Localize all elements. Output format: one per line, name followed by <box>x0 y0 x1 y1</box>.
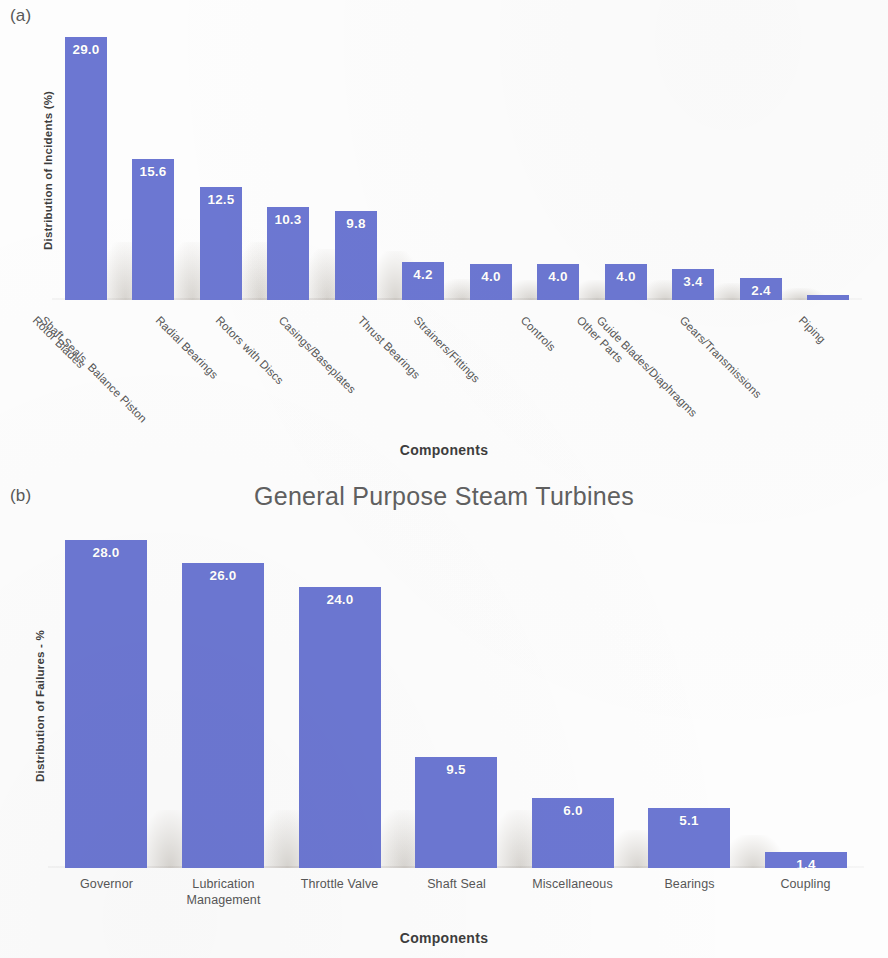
category-label: Strainers/Fittings <box>412 314 483 385</box>
bar-value-label: 9.8 <box>335 216 377 231</box>
bar-value-label: 2.4 <box>740 283 782 298</box>
bar-value-label: 26.0 <box>182 568 264 583</box>
bar-value-label: 15.6 <box>132 164 174 179</box>
panel-b-category-labels: GovernorLubrication ManagementThrottle V… <box>0 876 888 918</box>
category-label: Radial Bearings <box>154 314 221 381</box>
bar[interactable]: 26.0 <box>182 563 264 868</box>
category-label: Controls <box>519 314 558 353</box>
bar-value-label: 4.2 <box>402 267 444 282</box>
bar[interactable]: 4.0 <box>537 264 579 300</box>
category-label: Casings/Baseplates <box>277 314 359 396</box>
bar-value-label: 24.0 <box>299 592 381 607</box>
bar-value-label: 10.3 <box>267 212 309 227</box>
bar[interactable]: 3.4 <box>672 269 714 300</box>
panel-b-x-axis-label: Components <box>0 930 888 946</box>
panel-a-category-labels: Rotor BladesShaft Seals, Balance PistonR… <box>0 308 888 438</box>
panel-b-y-axis-label: Distribution of Failures - % <box>34 630 46 782</box>
bar[interactable]: 4.0 <box>605 264 647 300</box>
bar[interactable]: 4.2 <box>402 262 444 300</box>
bar-value-label: 4.0 <box>470 269 512 284</box>
bar[interactable]: 28.0 <box>65 540 147 868</box>
bar-value-label: 28.0 <box>65 545 147 560</box>
bar-value-label: 29.0 <box>65 42 107 57</box>
bar[interactable]: 5.1 <box>648 808 730 868</box>
panel-b-plot-area: 28.026.024.09.56.05.11.4 <box>48 528 864 868</box>
bar[interactable]: 9.8 <box>335 211 377 300</box>
bar-value-label: 4.0 <box>537 269 579 284</box>
bar[interactable]: 15.6 <box>132 159 174 300</box>
bar-value-label: 6.0 <box>532 803 614 818</box>
category-label: Governor <box>51 876 162 892</box>
panel-a-figure: (a) Distribution of Incidents (%) 29.015… <box>0 0 888 470</box>
category-label: Gears/Transmissions <box>678 314 764 400</box>
bar[interactable]: 9.5 <box>415 757 497 868</box>
bar-value-label: 3.4 <box>672 274 714 289</box>
bar[interactable] <box>807 295 849 300</box>
panel-b-title: General Purpose Steam Turbines <box>0 482 888 511</box>
bar[interactable]: 6.0 <box>532 798 614 868</box>
category-label: Shaft Seals, Balance Piston <box>39 314 150 425</box>
bar[interactable]: 1.4 <box>765 852 847 868</box>
category-label: Piping <box>797 314 829 346</box>
panel-a-x-axis-label: Components <box>0 442 888 458</box>
bar-value-label: 1.4 <box>765 857 847 872</box>
bar-value-label: 4.0 <box>605 269 647 284</box>
category-label: Bearings <box>634 876 745 892</box>
category-label: Rotors with Discs <box>214 314 287 387</box>
panel-a-plot-area: 29.015.612.510.39.84.24.04.04.03.42.4 <box>52 28 862 300</box>
bar-value-label: 9.5 <box>415 762 497 777</box>
category-label: Miscellaneous <box>517 876 628 892</box>
bar[interactable]: 4.0 <box>470 264 512 300</box>
bar[interactable]: 10.3 <box>267 207 309 300</box>
panel-b-figure: (b) General Purpose Steam Turbines Distr… <box>0 482 888 958</box>
bar-value-label: 12.5 <box>200 192 242 207</box>
bar[interactable]: 24.0 <box>299 587 381 868</box>
category-label: Throttle Valve <box>284 876 395 892</box>
category-label: Coupling <box>750 876 861 892</box>
bar[interactable]: 29.0 <box>65 37 107 300</box>
bar[interactable]: 2.4 <box>740 278 782 300</box>
bar-value-label <box>807 291 849 301</box>
category-label: Lubrication Management <box>168 876 279 908</box>
category-label: Shaft Seal <box>401 876 512 892</box>
bar-value-label: 5.1 <box>648 813 730 828</box>
bar[interactable]: 12.5 <box>200 187 242 300</box>
panel-a-tag: (a) <box>10 6 31 26</box>
